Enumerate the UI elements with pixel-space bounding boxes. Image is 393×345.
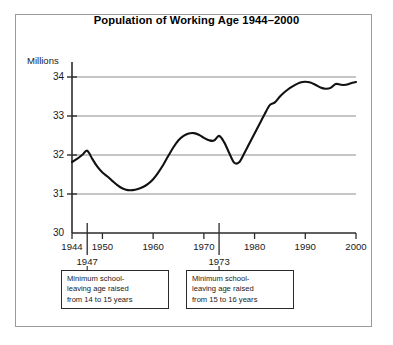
- y-axis-unit-label: Millions: [27, 55, 59, 66]
- y-tick-label-34: 34: [42, 71, 64, 82]
- annotation-text-line: from 14 to 15 years: [67, 295, 164, 305]
- event-year-label-1973: 1973: [199, 256, 239, 267]
- annotation-text-line: from 15 to 16 years: [192, 295, 289, 305]
- x-tick-label-1960: 1960: [136, 241, 170, 252]
- annotation-text-line: leaving age raised: [192, 284, 289, 294]
- y-tick-label-30: 30: [42, 227, 64, 238]
- y-tick-label-31: 31: [42, 188, 64, 199]
- x-tick-label-2000: 2000: [339, 241, 373, 252]
- annotation-text-line: Minimum school-: [192, 274, 289, 284]
- x-tick-label-1950: 1950: [85, 241, 119, 252]
- annotation-box-1973: Minimum school-leaving age raisedfrom 15…: [186, 270, 294, 309]
- x-tick-label-1990: 1990: [288, 241, 322, 252]
- annotation-box-1947: Minimum school-leaving age raisedfrom 14…: [61, 270, 169, 309]
- x-tick-label-1970: 1970: [187, 241, 221, 252]
- annotation-text-line: Minimum school-: [67, 274, 164, 284]
- event-year-label-1947: 1947: [67, 256, 107, 267]
- y-tick-label-32: 32: [42, 149, 64, 160]
- x-tick-label-1980: 1980: [238, 241, 272, 252]
- chart-title: Population of Working Age 1944–2000: [0, 14, 393, 26]
- x-tick-label-1944: 1944: [55, 241, 89, 252]
- annotation-text-line: leaving age raised: [67, 284, 164, 294]
- y-tick-label-33: 33: [42, 110, 64, 121]
